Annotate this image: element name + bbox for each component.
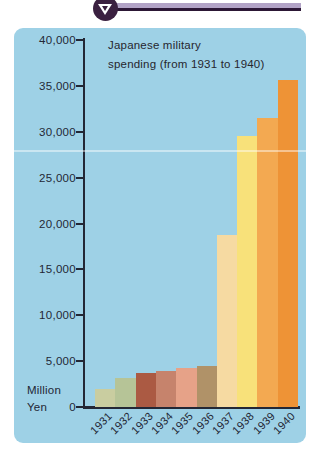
bar-1934 (156, 371, 176, 407)
bar-1938 (237, 136, 257, 407)
y-tick-label: 5,000 (46, 355, 76, 367)
y-axis-line (83, 38, 85, 407)
y-tick-label: 10,000 (39, 309, 76, 321)
unit-label-line2: Yen (27, 401, 47, 413)
unit-label-line1: Million (27, 384, 61, 396)
page: Japanese military spending (from 1931 to… (0, 0, 316, 456)
y-tick-mark (76, 223, 83, 225)
y-tick-label: 20,000 (39, 218, 76, 230)
bar-1940 (278, 80, 298, 407)
bar-1935 (176, 368, 196, 407)
ribbon-band-dark (110, 8, 301, 11)
down-triangle-marker-icon (93, 0, 118, 21)
y-tick-mark (76, 131, 83, 133)
bar-1937 (217, 235, 237, 408)
bar-1932 (115, 378, 135, 407)
triangle-inner (102, 6, 108, 11)
y-tick-label: 35,000 (39, 80, 76, 92)
chart-title: Japanese military spending (from 1931 to… (108, 36, 264, 74)
y-tick-label: 40,000 (39, 34, 76, 46)
y-tick-mark (76, 268, 83, 270)
y-tick-mark (76, 406, 83, 408)
bar-1933 (136, 373, 156, 407)
bar-1931 (95, 389, 115, 407)
y-tick-label: 25,000 (39, 172, 76, 184)
bar-1939 (257, 118, 277, 407)
y-tick-mark (76, 314, 83, 316)
y-tick-label: 0 (69, 401, 76, 413)
y-tick-mark (76, 177, 83, 179)
y-tick-mark (76, 39, 83, 41)
chart-title-line2: spending (from 1931 to 1940) (108, 55, 264, 74)
y-tick-label: 30,000 (39, 126, 76, 138)
y-tick-label: 15,000 (39, 263, 76, 275)
y-tick-mark (76, 360, 83, 362)
scan-artifact-line (14, 150, 306, 152)
chart-title-line1: Japanese military (108, 36, 264, 55)
y-tick-mark (76, 85, 83, 87)
chart-panel: Japanese military spending (from 1931 to… (14, 28, 306, 443)
bar-1936 (197, 366, 217, 407)
